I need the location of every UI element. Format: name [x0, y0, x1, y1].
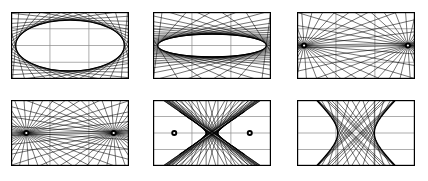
conic-panel-2-canvas — [153, 12, 271, 79]
conic-panel-5-canvas — [153, 100, 271, 166]
conic-panel-4-canvas — [11, 100, 129, 166]
conic-panel-2 — [153, 12, 271, 79]
conic-panel-3-canvas — [297, 12, 415, 79]
conic-panel-4 — [11, 100, 129, 166]
conic-panel-3 — [297, 12, 415, 79]
conic-panel-5 — [153, 100, 271, 166]
conic-envelopes-figure — [0, 0, 428, 181]
conic-panel-6 — [297, 100, 415, 166]
conic-panel-1-canvas — [11, 12, 129, 79]
conic-panel-6-canvas — [297, 100, 415, 166]
conic-panel-1 — [11, 12, 129, 79]
